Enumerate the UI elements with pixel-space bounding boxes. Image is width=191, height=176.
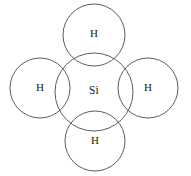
molecule-diagram: H H H H Si <box>0 0 191 176</box>
atom-label-hydrogen-top: H <box>90 27 98 39</box>
atom-label-silicon-center: Si <box>89 84 99 96</box>
atom-label-hydrogen-right: H <box>144 81 152 93</box>
molecule-canvas: H H H H Si <box>0 0 191 176</box>
atom-label-hydrogen-left: H <box>36 81 44 93</box>
atom-label-hydrogen-bottom: H <box>91 134 99 146</box>
